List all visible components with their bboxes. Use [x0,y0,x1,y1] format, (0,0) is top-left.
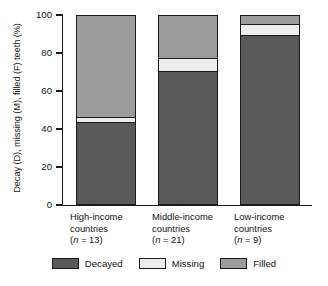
y-tick-label: 0 [12,200,52,210]
y-tick-label: 60 [12,86,52,96]
plot-area [62,15,312,205]
category-label-line1: Low-income [234,211,328,223]
legend-item-filled: Filled [220,258,276,269]
bar-segment-decayed [241,35,299,205]
bar-segment-filled [159,16,217,58]
chart-legend: DecayedMissingFilled [0,258,328,269]
legend-label-decayed: Decayed [85,259,123,269]
bar-1 [76,15,136,205]
bar-segment-filled [241,16,299,24]
legend-item-missing: Missing [139,258,205,269]
x-axis-line [62,205,312,206]
bar-2 [158,15,218,205]
legend-label-missing: Missing [172,259,205,269]
y-tick-label: 100 [12,10,52,20]
bar-segment-missing [241,24,299,35]
bar-segment-decayed [159,71,217,205]
bar-segment-missing [159,58,217,71]
legend-label-filled: Filled [253,259,276,269]
y-tick-label: 40 [12,124,52,134]
legend-item-decayed: Decayed [52,258,123,269]
category-sample-size: (n = 9) [234,234,328,246]
bar-3 [240,15,300,205]
stacked-bar-chart: Decay (D), missing (M), filled (F) teeth… [0,0,328,286]
bar-segment-filled [77,16,135,117]
y-tick-label: 20 [12,162,52,172]
legend-swatch-filled [220,258,247,269]
category-label-3: Low-incomecountries(n = 9) [234,211,328,246]
y-axis-title: Decay (D), missing (M), filled (F) teeth… [12,8,22,208]
y-tick-label: 80 [12,48,52,58]
bar-segment-decayed [77,122,135,205]
category-label-line2: countries [234,223,328,235]
legend-swatch-missing [139,258,166,269]
legend-swatch-decayed [52,258,79,269]
